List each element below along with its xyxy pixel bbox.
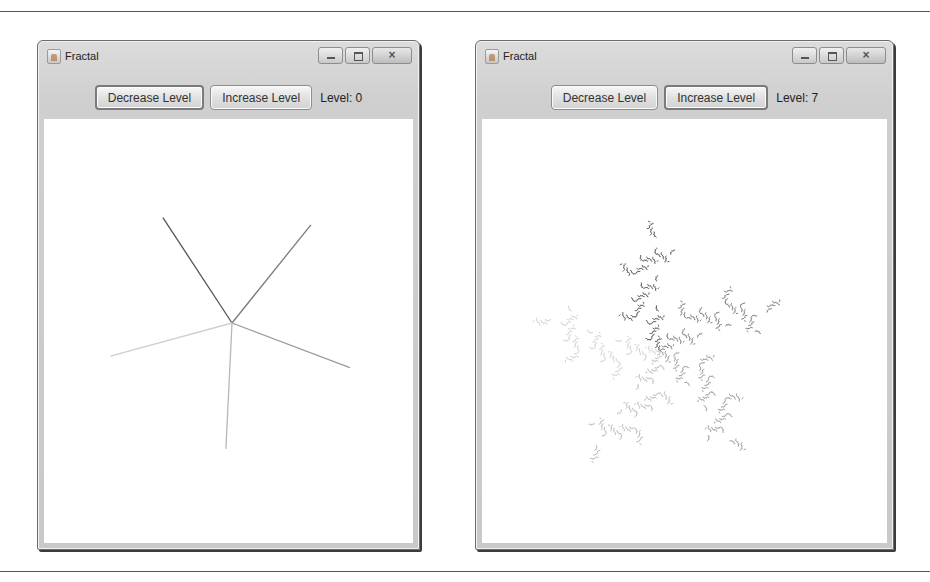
fractal-segment (738, 397, 739, 399)
fractal-segment (665, 257, 666, 259)
fractal-segment (680, 301, 682, 302)
fractal-segment (776, 303, 778, 304)
maximize-button[interactable] (819, 47, 844, 64)
fractal-segment (699, 364, 700, 366)
close-button[interactable]: × (846, 47, 886, 64)
fractal-segment (605, 431, 606, 432)
fractal-segment (669, 398, 670, 400)
fractal-segment (680, 378, 682, 379)
fractal-segment (757, 316, 758, 317)
fractal-segment (595, 449, 597, 451)
fractal-segment (681, 375, 683, 376)
fractal-segment (603, 423, 604, 424)
fractal-segment (604, 357, 605, 358)
fractal-segment (729, 398, 731, 399)
fractal-segment (681, 371, 683, 372)
fractal-segment (726, 324, 727, 325)
fractal-segment (741, 444, 742, 446)
fractal-segment (650, 399, 651, 401)
fractal-segment (624, 268, 625, 270)
fractal-segment (620, 411, 622, 413)
fractal-segment (642, 269, 643, 270)
fractal-segment (672, 250, 673, 251)
fractal-segment (643, 377, 644, 379)
fractal-segment (629, 342, 630, 343)
fractal-segment (665, 256, 666, 258)
fractal-segment (631, 315, 632, 316)
fractal-segment (650, 224, 651, 226)
fractal-segment (614, 430, 615, 432)
fractal-segment (647, 398, 648, 399)
fractal-segment (668, 343, 669, 345)
fractal-segment (729, 306, 730, 308)
fractal-segment (621, 434, 622, 436)
fractal-segment (712, 376, 714, 377)
fractal-segment (602, 346, 603, 347)
fractal-segment (601, 343, 603, 344)
fractal-segment (639, 441, 640, 442)
decrease-level-button[interactable]: Decrease Level (95, 85, 204, 110)
fractal-segment (638, 384, 639, 386)
fractal-segment (546, 323, 547, 325)
fractal-segment (681, 378, 683, 379)
fractal-segment (709, 318, 710, 320)
fractal-segment (733, 313, 734, 314)
increase-level-button[interactable]: Increase Level (210, 85, 312, 110)
fractal-segment (642, 287, 644, 288)
fractal-segment (662, 318, 663, 320)
fractal-segment (731, 399, 732, 400)
fractal-segment (577, 356, 579, 357)
fractal-segment (750, 324, 751, 325)
fractal-segment (742, 308, 743, 310)
fractal-segment (729, 394, 730, 396)
fractal-segment (641, 260, 643, 261)
fractal-segment (625, 318, 626, 321)
title-bar[interactable]: Fractal × (476, 41, 893, 75)
fractal-segment (732, 291, 733, 292)
fractal-segment (636, 376, 638, 378)
increase-level-button[interactable]: Increase Level (664, 85, 768, 110)
fractal-segment (652, 332, 653, 334)
title-bar[interactable]: Fractal × (38, 41, 419, 75)
fractal-segment (716, 312, 717, 313)
fractal-segment (768, 309, 770, 310)
fractal-segment (657, 260, 659, 262)
fractal-segment (650, 405, 652, 406)
fractal-segment (595, 336, 597, 337)
minimize-button[interactable] (792, 47, 817, 64)
fractal-segment (744, 321, 746, 322)
fractal-segment (718, 409, 719, 410)
fractal-segment (735, 309, 736, 311)
fractal-segment (708, 435, 709, 437)
fractal-segment (627, 270, 628, 272)
fractal-segment (605, 358, 606, 360)
fractal-segment (655, 370, 657, 371)
level-label: Level: 0 (320, 91, 362, 105)
fractal-segment (619, 314, 621, 316)
fractal-segment (707, 439, 708, 441)
fractal-segment (595, 458, 596, 459)
fractal-segment (545, 320, 547, 321)
fractal-segment (707, 387, 709, 388)
fractal-segment (623, 315, 624, 317)
decrease-level-button[interactable]: Decrease Level (551, 85, 658, 110)
fractal-segment (642, 265, 643, 267)
fractal-segment (708, 323, 709, 324)
fractal-segment (772, 301, 773, 303)
fractal-segment (719, 427, 721, 428)
close-button[interactable]: × (372, 47, 412, 64)
maximize-button[interactable] (345, 47, 370, 64)
fractal-segment (751, 317, 752, 319)
fractal-segment (614, 432, 615, 433)
fractal-segment (627, 347, 629, 348)
minimize-button[interactable] (318, 47, 343, 64)
fractal-segment (724, 418, 726, 419)
fractal-segment (740, 307, 741, 308)
fractal-segment (747, 331, 748, 333)
fractal-segment (541, 320, 542, 322)
fractal-segment (683, 341, 685, 342)
fractal-segment (729, 414, 731, 415)
fractal-segment (702, 390, 703, 392)
fractal-segment (675, 367, 677, 368)
fractal-segment (682, 308, 684, 309)
